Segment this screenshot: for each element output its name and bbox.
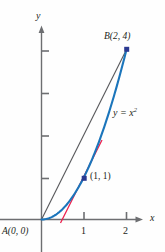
x-axis-arrow-icon [136, 217, 144, 223]
curve-equation-lhs: y = x [113, 107, 134, 118]
y-axis-arrow-icon [39, 26, 45, 34]
point-marker-p [82, 176, 87, 181]
y-axis-ticks [42, 51, 50, 179]
point-label-p: (1, 1) [90, 172, 111, 182]
secant-line-ab [42, 50, 127, 220]
curve-equation-label: y = x2 [113, 108, 137, 118]
point-label-b-text: B(2, 4) [104, 31, 130, 41]
point-marker-b [124, 47, 129, 52]
point-label-a: A(0, 0) [2, 227, 28, 237]
figure-canvas: y x 1 2 A(0, 0) B(2, 4) (1, 1) y = x2 [0, 0, 165, 252]
graph-svg [0, 0, 165, 252]
x-tick-label-2: 2 [123, 226, 128, 236]
x-axis [0, 212, 143, 222]
point-label-a-text: A(0, 0) [2, 226, 28, 236]
x-axis-ticks [84, 212, 127, 220]
y-axis-label: y [36, 11, 40, 21]
x-tick-label-1: 1 [81, 226, 86, 236]
x-axis-label: x [150, 213, 154, 223]
curve-equation-exponent: 2 [134, 106, 137, 113]
point-label-b: B(2, 4) [104, 32, 130, 42]
